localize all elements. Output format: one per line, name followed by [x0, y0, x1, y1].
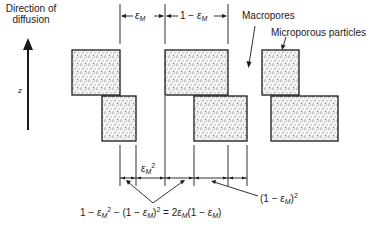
one-minus-eps-m-label: 1 − εM: [180, 10, 207, 24]
block-col1-upper: [72, 50, 120, 95]
direction-label-line2: diffusion: [2, 14, 60, 25]
microporous-pointer: [281, 37, 286, 50]
eps-m-squared-label: εM2: [141, 160, 155, 177]
direction-of-diffusion-label: Direction of diffusion: [2, 3, 60, 25]
macropores-label: Macropores: [242, 10, 295, 21]
one-minus-prefix: 1 −: [180, 10, 197, 21]
macropore-area-equation: 1 − εM2 − (1 − εM)2) = 2 = 2εM(1 − εM): [80, 204, 221, 221]
particle-blocks: [72, 50, 338, 141]
macropores-pointer: [247, 26, 256, 68]
z-axis-label: z: [18, 85, 22, 96]
diffusion-direction-arrow: [23, 38, 33, 130]
block-col2-upper: [165, 50, 228, 95]
microporous-particles-label: Microporous particles: [271, 27, 366, 38]
block-col3-lower: [271, 96, 338, 141]
block-col3-upper: [262, 50, 299, 95]
eq-part: − (1 −: [111, 207, 143, 218]
exponent: 2: [294, 192, 298, 199]
eps-subscript: M: [101, 212, 107, 219]
eq-part: 1 −: [80, 207, 97, 218]
eps-subscript: M: [145, 168, 151, 175]
eps-m-label: εM: [135, 10, 145, 24]
eps-subscript: M: [201, 15, 207, 22]
direction-label-line1: Direction of: [2, 3, 60, 14]
eq-part: ): [218, 207, 221, 218]
exponent: 2: [151, 162, 155, 169]
one-minus-eps-m-squared-label: (1 − εM)2: [260, 190, 298, 207]
prefix: (1 −: [260, 193, 280, 204]
eq-part: (1 −: [188, 207, 208, 218]
block-col2-lower: [194, 96, 247, 141]
eps-subscript: M: [139, 15, 145, 22]
equation-pointers: [126, 180, 258, 203]
block-col1-lower: [102, 96, 136, 141]
